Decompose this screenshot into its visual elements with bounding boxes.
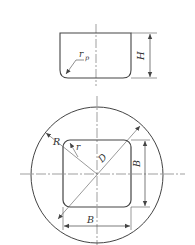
cup-outline	[60, 33, 131, 78]
square-corner-radius-label: r	[76, 142, 81, 152]
corner-radius-subscript: p	[85, 54, 90, 62]
height-label: H	[135, 51, 146, 61]
side-view: H r p	[60, 24, 157, 86]
side-b-vertical-label: B	[131, 160, 142, 168]
corner-radius-label: r	[79, 49, 84, 59]
drawing-canvas: H r p R r D B B	[0, 0, 195, 245]
side-b-horizontal-label: B	[86, 214, 94, 225]
plan-view: R r D B B	[20, 96, 185, 245]
corner-radius-leader	[66, 60, 84, 74]
blank-radius-label: R	[52, 136, 60, 147]
